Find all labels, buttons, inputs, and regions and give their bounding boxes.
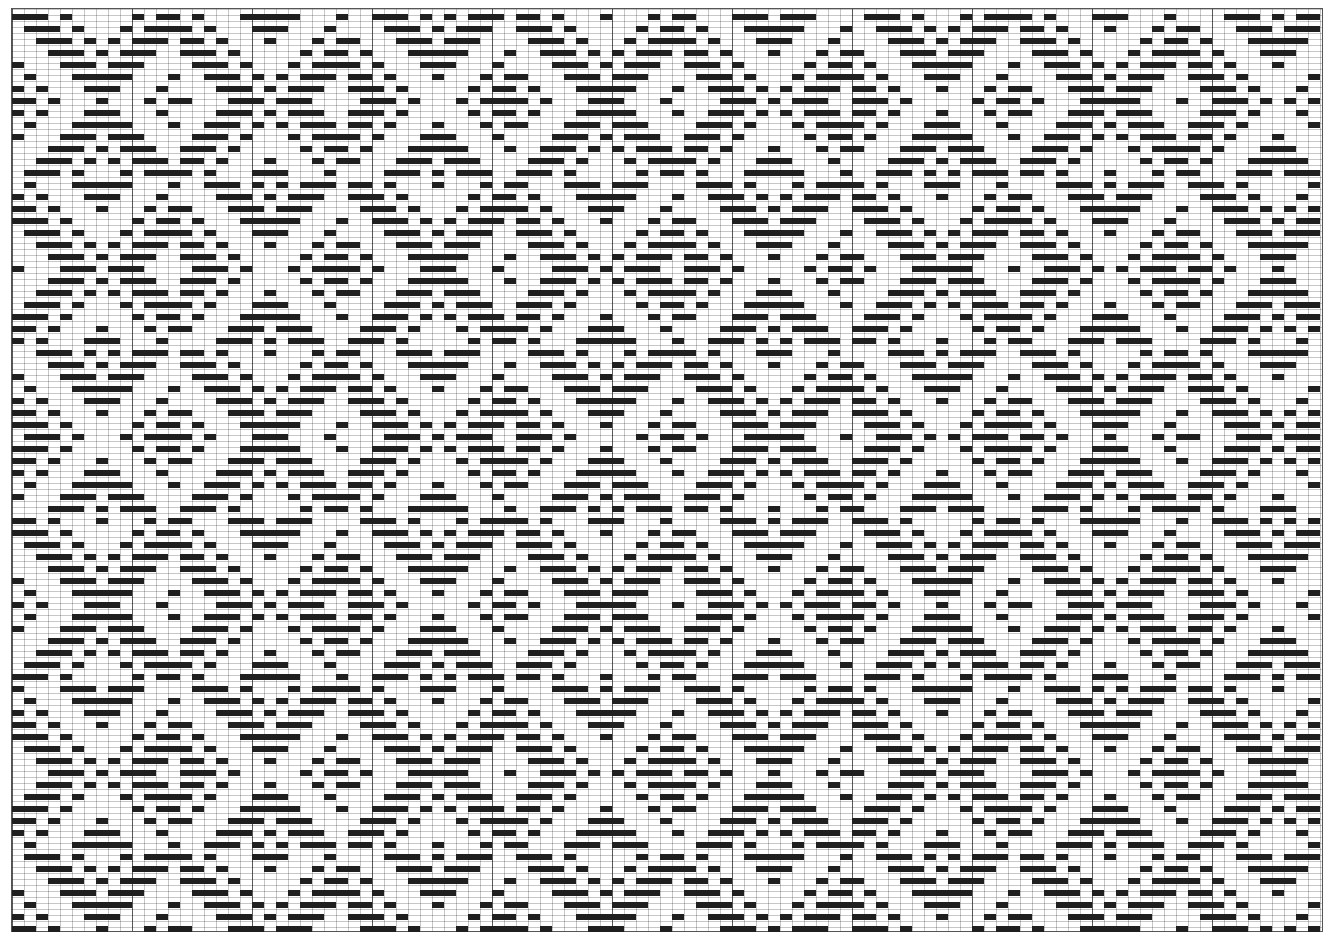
filled-cell-run <box>1068 110 1104 116</box>
filled-cell-run <box>72 386 132 392</box>
filled-cell-run <box>864 266 876 272</box>
filled-cell-run <box>12 458 36 464</box>
filled-cell-run <box>636 170 648 176</box>
filled-cell-run <box>504 506 516 512</box>
filled-cell-run <box>888 38 924 44</box>
filled-cell-run <box>60 674 72 680</box>
filled-cell-run <box>588 926 624 932</box>
filled-cell-run <box>432 182 444 188</box>
filled-cell-run <box>924 122 960 128</box>
filled-cell-run <box>648 674 660 680</box>
filled-cell-run <box>108 626 144 632</box>
filled-cell-run <box>1068 758 1080 764</box>
filled-cell-run <box>396 470 408 476</box>
filled-cell-run <box>12 818 36 824</box>
filled-cell-run <box>504 122 528 128</box>
filled-cell-run <box>144 926 156 932</box>
filled-cell-run <box>1020 650 1056 656</box>
filled-cell-run <box>864 314 900 320</box>
filled-cell-run <box>324 302 336 308</box>
filled-cell-run <box>252 434 288 440</box>
filled-cell-run <box>1224 374 1236 380</box>
filled-cell-run <box>792 722 828 728</box>
filled-cell-run <box>192 626 228 632</box>
filled-cell-run <box>552 806 564 812</box>
filled-cell-run <box>600 422 612 428</box>
filled-cell-run <box>516 806 540 812</box>
filled-cell-run <box>216 830 252 836</box>
filled-cell-run <box>1092 422 1128 428</box>
filled-cell-run <box>888 602 900 608</box>
filled-cell-run <box>96 878 108 884</box>
filled-cell-run <box>48 638 84 644</box>
filled-cell-run <box>624 554 636 560</box>
filled-cell-run <box>708 866 720 872</box>
filled-cell-run <box>300 482 336 488</box>
filled-cell-run <box>996 590 1008 596</box>
filled-cell-run <box>648 290 696 296</box>
filled-cell-run <box>276 518 312 524</box>
filled-cell-run <box>804 86 840 92</box>
filled-cell-run <box>684 266 720 272</box>
filled-cell-run <box>1284 518 1296 524</box>
filled-cell-run <box>1308 182 1320 188</box>
filled-cell-run <box>1140 890 1176 896</box>
filled-cell-run <box>1224 530 1260 536</box>
filled-cell-run <box>36 710 48 716</box>
filled-cell-run <box>1212 518 1248 524</box>
filled-cell-run <box>120 254 156 260</box>
filled-cell-run <box>84 194 120 200</box>
filled-cell-run <box>504 254 516 260</box>
filled-cell-run <box>360 98 396 104</box>
filled-cell-run <box>252 902 264 908</box>
filled-cell-run <box>348 470 384 476</box>
filled-cell-run <box>132 218 144 224</box>
filled-cell-run <box>228 326 264 332</box>
filled-cell-run <box>960 554 996 560</box>
filled-cell-run <box>516 14 540 20</box>
filled-cell-run <box>1260 818 1272 824</box>
filled-cell-run <box>1260 206 1272 212</box>
filled-cell-run <box>1236 482 1248 488</box>
filled-cell-run <box>1080 146 1092 152</box>
filled-cell-run <box>1008 914 1032 920</box>
filled-cell-run <box>696 590 732 596</box>
filled-cell-run <box>888 650 924 656</box>
filled-cell-run <box>1104 26 1116 32</box>
filled-cell-run <box>948 794 960 800</box>
filled-cell-run <box>468 14 504 20</box>
filled-cell-run <box>1080 722 1140 728</box>
filled-cell-run <box>48 254 84 260</box>
filled-cell-run <box>300 146 312 152</box>
filled-cell-run <box>120 302 132 308</box>
filled-cell-run <box>1260 638 1296 644</box>
filled-cell-run <box>1128 50 1140 56</box>
filled-cell-run <box>1212 818 1248 824</box>
filled-cell-run <box>564 590 600 596</box>
filled-cell-run <box>84 650 96 656</box>
filled-cell-run <box>396 110 408 116</box>
filled-cell-run <box>924 590 960 596</box>
weave-drawdown-grid <box>11 8 1323 932</box>
filled-cell-run <box>300 638 312 644</box>
filled-cell-run <box>1116 374 1128 380</box>
filled-cell-run <box>72 122 132 128</box>
filled-cell-run <box>1248 110 1260 116</box>
filled-cell-run <box>552 626 588 632</box>
filled-cell-run <box>12 518 36 524</box>
filled-cell-run <box>1080 458 1140 464</box>
filled-cell-run <box>1260 254 1296 260</box>
filled-cell-run <box>1044 578 1080 584</box>
filled-cell-run <box>1104 746 1116 752</box>
filled-cell-run <box>360 254 372 260</box>
filled-cell-run <box>384 614 396 620</box>
filled-cell-run <box>1032 362 1068 368</box>
filled-cell-run <box>1068 470 1104 476</box>
filled-cell-run <box>600 578 612 584</box>
filled-cell-run <box>1092 674 1128 680</box>
filled-cell-run <box>1188 74 1224 80</box>
filled-cell-run <box>960 782 996 788</box>
filled-cell-run <box>1140 134 1176 140</box>
filled-cell-run <box>588 566 600 572</box>
filled-cell-run <box>540 206 552 212</box>
